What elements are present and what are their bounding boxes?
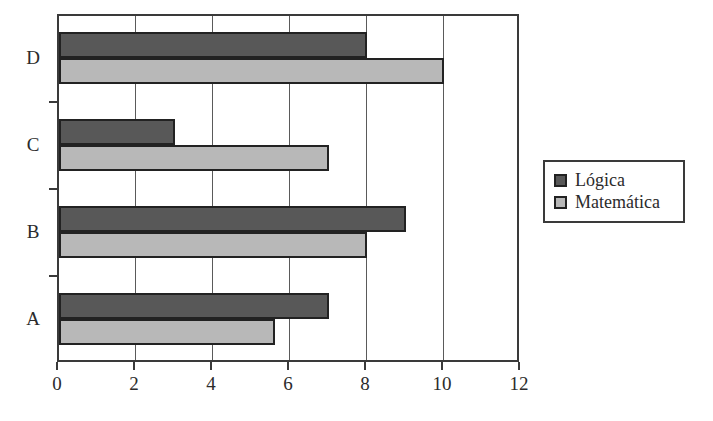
- x-tick-label: 4: [191, 373, 231, 395]
- category-tick: [49, 275, 57, 277]
- bar-B-matemática: [59, 232, 367, 258]
- category-label-A: A: [18, 309, 48, 328]
- bar-C-matemática: [59, 145, 329, 171]
- bar-group: [59, 119, 521, 175]
- chart-legend: LógicaMatemática: [543, 160, 685, 223]
- bar-D-lógica: [59, 32, 367, 58]
- bar-D-matemática: [59, 58, 444, 84]
- bar-group: [59, 206, 521, 262]
- category-tick: [49, 101, 57, 103]
- category-label-B: B: [18, 222, 48, 241]
- x-tick: [133, 362, 135, 370]
- x-tick-label: 6: [268, 373, 308, 395]
- legend-swatch-icon: [554, 196, 567, 209]
- x-tick-label: 8: [345, 373, 385, 395]
- category-label-C: C: [18, 135, 48, 154]
- x-tick-label: 12: [499, 373, 539, 395]
- x-tick: [287, 362, 289, 370]
- bar-group: [59, 32, 521, 88]
- bar-B-lógica: [59, 206, 406, 232]
- x-tick-label: 10: [422, 373, 462, 395]
- x-tick: [364, 362, 366, 370]
- x-tick: [518, 362, 520, 370]
- bar-chart: DCBA 024681012 LógicaMatemática: [0, 0, 713, 421]
- category-label-D: D: [18, 48, 48, 67]
- x-tick-label: 2: [114, 373, 154, 395]
- x-tick: [210, 362, 212, 370]
- bar-C-lógica: [59, 119, 175, 145]
- bar-A-matemática: [59, 319, 275, 345]
- legend-label: Matemática: [575, 192, 660, 212]
- plot-area: [57, 14, 519, 362]
- legend-swatch-icon: [554, 174, 567, 187]
- x-tick-label: 0: [37, 373, 77, 395]
- category-tick: [49, 188, 57, 190]
- bar-A-lógica: [59, 293, 329, 319]
- legend-item-lógica: Lógica: [554, 169, 674, 191]
- legend-label: Lógica: [575, 170, 625, 190]
- x-tick: [56, 362, 58, 370]
- x-tick: [441, 362, 443, 370]
- bar-group: [59, 293, 521, 349]
- legend-item-matemática: Matemática: [554, 191, 674, 213]
